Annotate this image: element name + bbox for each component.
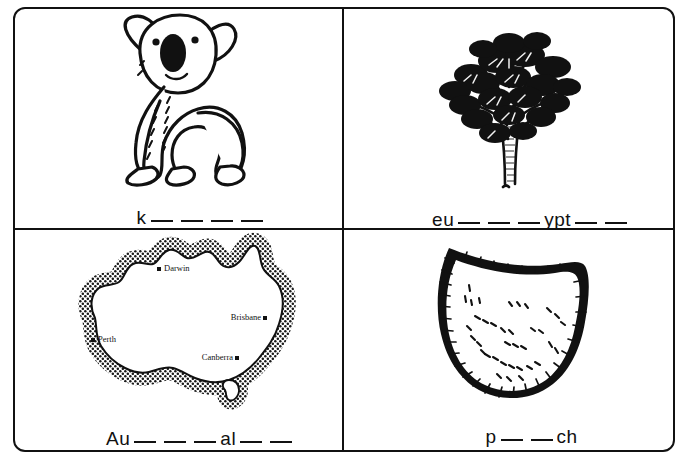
worksheet-cell-eucalyptus: euypt xyxy=(344,9,673,230)
blank[interactable] xyxy=(134,429,156,443)
koala-label: k xyxy=(90,189,266,230)
pouch-suffix: ch xyxy=(557,426,578,447)
eucalyptus-tree-illustration xyxy=(344,9,673,191)
blank[interactable] xyxy=(501,427,523,441)
worksheet-cell-pouch: pch xyxy=(344,230,673,451)
blank[interactable] xyxy=(488,210,510,224)
australia-map-illustration: Darwin Brisbane Perth Canberra xyxy=(15,230,342,410)
australia-suffix: al xyxy=(220,428,236,449)
australia-prefix: Au xyxy=(106,428,130,449)
eucalyptus-label: euypt xyxy=(386,191,631,230)
blank[interactable] xyxy=(194,429,216,443)
map-label-perth: Perth xyxy=(98,334,117,344)
blank[interactable] xyxy=(241,208,263,222)
blank[interactable] xyxy=(531,427,553,441)
blank[interactable] xyxy=(211,208,233,222)
worksheet-grid: k xyxy=(15,9,673,450)
map-label-darwin: Darwin xyxy=(164,263,190,273)
blank[interactable] xyxy=(518,210,540,224)
blank[interactable] xyxy=(575,210,597,224)
koala-illustration xyxy=(15,9,342,189)
eucalyptus-suffix: ypt xyxy=(544,209,571,230)
blank[interactable] xyxy=(164,429,186,443)
pouch-prefix: p xyxy=(486,426,497,447)
eucalyptus-prefix: eu xyxy=(432,209,454,230)
map-label-brisbane: Brisbane xyxy=(230,312,260,322)
blank[interactable] xyxy=(270,429,292,443)
blank[interactable] xyxy=(605,210,627,224)
blank[interactable] xyxy=(240,429,262,443)
australia-label: Aual xyxy=(61,410,296,451)
map-label-canberra: Canberra xyxy=(201,352,232,362)
worksheet-cell-australia: Darwin Brisbane Perth Canberra Aual xyxy=(15,230,344,451)
blank[interactable] xyxy=(458,210,480,224)
blank[interactable] xyxy=(151,208,173,222)
pouch-illustration xyxy=(344,230,673,408)
worksheet-cell-koala: k xyxy=(15,9,344,230)
worksheet-frame: k xyxy=(13,7,675,452)
blank[interactable] xyxy=(181,208,203,222)
pouch-label: pch xyxy=(439,408,577,451)
koala-prefix: k xyxy=(137,207,147,228)
